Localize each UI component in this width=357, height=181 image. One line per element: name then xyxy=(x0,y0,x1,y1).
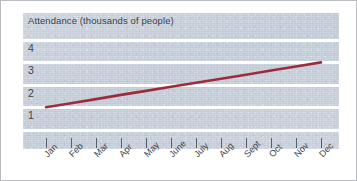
plot-area: Attendance (thousands of people) 4321 xyxy=(23,13,339,149)
series-line-attendance xyxy=(46,62,321,107)
chart-figure: Attendance (thousands of people) 4321 Ja… xyxy=(0,0,357,181)
data-series-layer xyxy=(23,13,339,149)
